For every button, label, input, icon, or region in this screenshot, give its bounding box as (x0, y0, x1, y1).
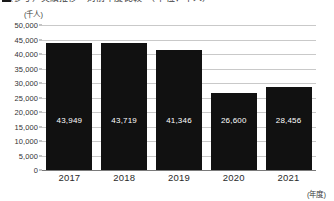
bar[interactable]: 26,600 (211, 93, 257, 170)
x-axis-tick-labels: 20172018201920202021 (42, 172, 316, 188)
bar-slot: 28,456 (261, 25, 316, 170)
y-tick-label: 25,000 (14, 93, 38, 102)
bar-value-label: 41,346 (156, 116, 202, 125)
x-tick-label: 2017 (42, 172, 97, 183)
y-axis-tick-labels: 05,00010,00015,00020,00025,00030,00035,0… (0, 25, 42, 170)
bar-value-label: 28,456 (266, 116, 312, 125)
y-tick-label: 50,000 (14, 21, 38, 30)
y-tick-label: 30,000 (14, 79, 38, 88)
x-tick-label: 2018 (97, 172, 152, 183)
plot-area: 43,94943,71941,34626,60028,456 (42, 25, 316, 170)
bar-slot: 43,949 (42, 25, 97, 170)
y-tick-label: 40,000 (14, 50, 38, 59)
bar-value-label: 43,949 (46, 116, 92, 125)
bar-slot: 43,719 (97, 25, 152, 170)
y-tick-label: 5,000 (19, 151, 38, 160)
y-tick-label: 20,000 (14, 108, 38, 117)
y-tick-label: 45,000 (14, 35, 38, 44)
bar[interactable]: 43,719 (101, 43, 147, 170)
bar-slot: 41,346 (152, 25, 207, 170)
y-tick-label: 0 (34, 166, 38, 175)
bar-value-label: 26,600 (211, 116, 257, 125)
y-tick-label: 35,000 (14, 64, 38, 73)
bar[interactable]: 43,949 (46, 43, 92, 170)
bar-series: 43,94943,71941,34626,60028,456 (42, 25, 316, 170)
clipped-title-strip: （参考）実績推移 対前年度比較 （単位：千人） (0, 0, 334, 5)
x-axis-caption: (年度) (307, 188, 326, 199)
page-title: （参考）実績推移 対前年度比較 （単位：千人） (4, 0, 212, 4)
x-tick-label: 2019 (152, 172, 207, 183)
axis-baseline (42, 170, 316, 171)
bar-slot: 26,600 (206, 25, 261, 170)
y-tick-label: 15,000 (14, 122, 38, 131)
bar-chart-figure: （参考）実績推移 対前年度比較 （単位：千人） (千人) 05,00010,00… (0, 0, 334, 201)
bar[interactable]: 41,346 (156, 50, 202, 170)
x-tick-label: 2021 (261, 172, 316, 183)
bar-value-label: 43,719 (101, 116, 147, 125)
x-tick-label: 2020 (206, 172, 261, 183)
bar[interactable]: 28,456 (266, 87, 312, 170)
y-axis-unit-label: (千人) (24, 8, 43, 19)
y-tick-label: 10,000 (14, 137, 38, 146)
